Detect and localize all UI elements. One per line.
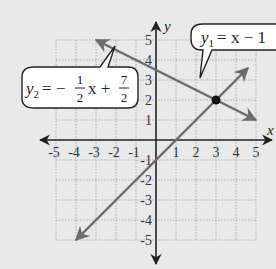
intersection-point (212, 96, 221, 105)
svg-text:-4: -4 (140, 213, 152, 228)
svg-text:-2: -2 (108, 145, 120, 160)
svg-text:-5: -5 (48, 145, 60, 160)
svg-text:2: 2 (145, 93, 152, 108)
svg-text:-3: -3 (140, 193, 152, 208)
svg-text:1: 1 (77, 72, 84, 87)
svg-text:-1: -1 (128, 145, 140, 160)
y-axis-label: y (162, 18, 171, 34)
graph: x y -5 -4 -3 -2 -1 1 2 3 4 5 5 4 3 2 1 -… (0, 0, 276, 269)
svg-text:1: 1 (173, 145, 180, 160)
svg-text:5: 5 (145, 33, 152, 48)
svg-text:-5: -5 (140, 233, 152, 248)
svg-text:x +: x + (88, 79, 110, 98)
svg-text:2: 2 (193, 145, 200, 160)
svg-text:3: 3 (213, 145, 220, 160)
svg-text:3: 3 (145, 73, 152, 88)
callout-y2: y2= − 1 2 x + 7 2 (22, 46, 138, 108)
svg-text:-4: -4 (68, 145, 80, 160)
svg-text:2: 2 (121, 90, 128, 105)
svg-text:2: 2 (77, 90, 84, 105)
svg-text:y2= −: y2= − (24, 79, 65, 100)
x-tick-labels: -5 -4 -3 -2 -1 1 2 3 4 5 (48, 145, 259, 160)
svg-text:7: 7 (121, 72, 128, 87)
callout-y1: y1= x − 1 (191, 24, 276, 78)
svg-text:-3: -3 (88, 145, 100, 160)
svg-text:4: 4 (233, 145, 240, 160)
x-axis-label: x (266, 122, 274, 138)
svg-text:5: 5 (253, 145, 260, 160)
svg-text:1: 1 (145, 113, 152, 128)
